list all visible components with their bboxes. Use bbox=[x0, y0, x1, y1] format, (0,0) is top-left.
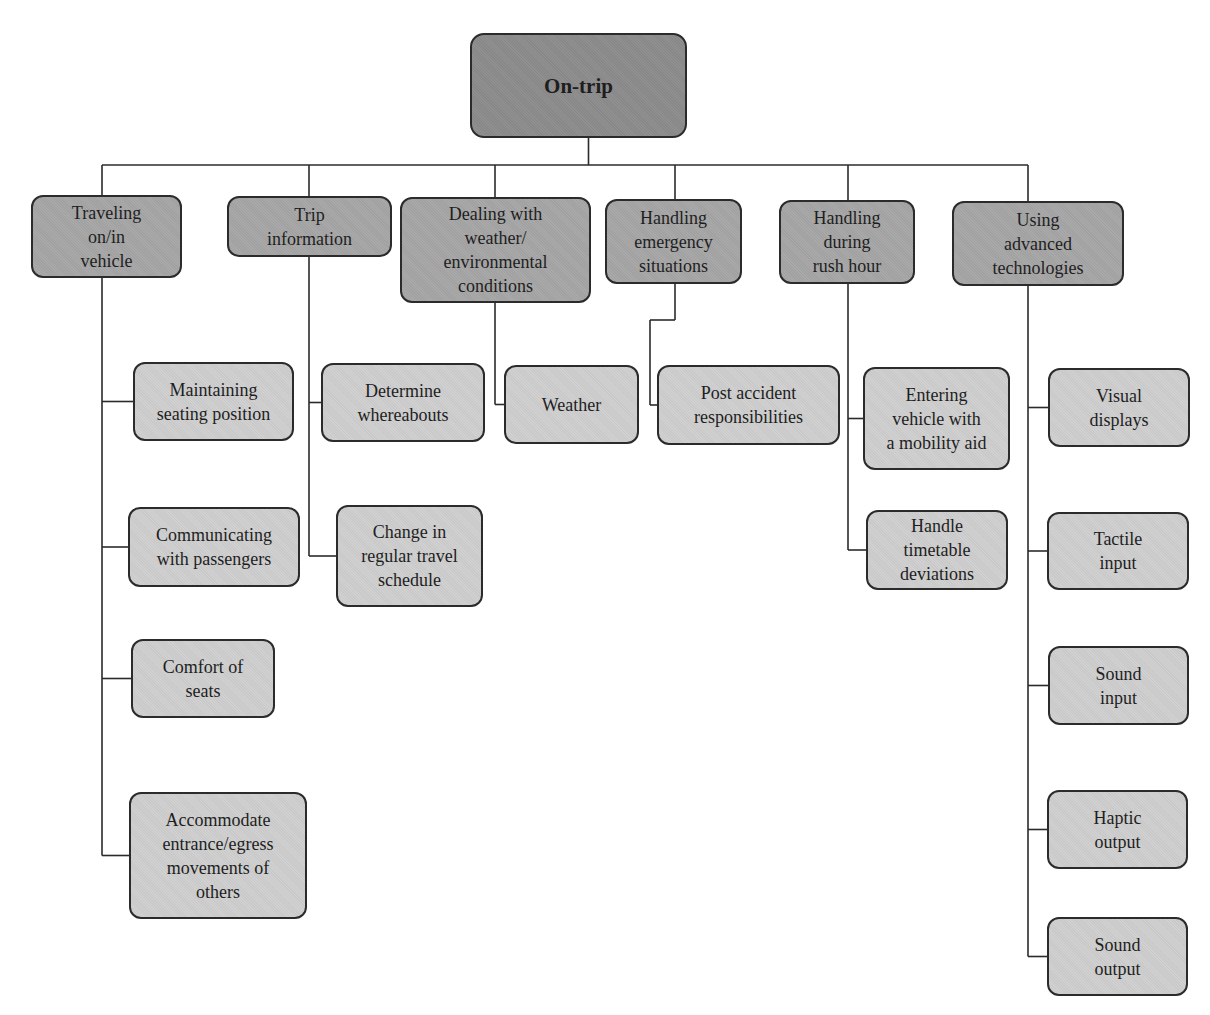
leaf-determine-whereabouts: Determine whereabouts bbox=[321, 363, 485, 442]
leaf-visual-displays: Visual displays bbox=[1048, 368, 1190, 447]
leaf-maintaining-seating-position: Maintaining seating position bbox=[133, 362, 294, 441]
leaf-accommodate-entrance-egress: Accommodate entrance/egress movements of… bbox=[129, 792, 307, 919]
category-weather-environmental: Dealing with weather/ environmental cond… bbox=[400, 197, 591, 303]
leaf-tactile-input: Tactile input bbox=[1047, 512, 1189, 590]
leaf-change-in-travel-schedule: Change in regular travel schedule bbox=[336, 505, 483, 607]
category-rush-hour: Handling during rush hour bbox=[779, 200, 915, 284]
category-trip-information: Trip information bbox=[227, 196, 392, 257]
leaf-communicating-with-passengers: Communicating with passengers bbox=[128, 507, 300, 587]
category-traveling-on-in-vehicle: Traveling on/in vehicle bbox=[31, 195, 182, 278]
root-node-on-trip: On-trip bbox=[470, 33, 687, 138]
leaf-comfort-of-seats: Comfort of seats bbox=[131, 639, 275, 718]
leaf-sound-output: Sound output bbox=[1047, 917, 1188, 996]
leaf-post-accident-responsibilities: Post accident responsibilities bbox=[657, 365, 840, 445]
leaf-weather: Weather bbox=[504, 365, 639, 444]
category-handling-emergency: Handling emergency situations bbox=[605, 199, 742, 284]
leaf-entering-vehicle-mobility-aid: Entering vehicle with a mobility aid bbox=[863, 367, 1010, 470]
category-advanced-technologies: Using advanced technologies bbox=[952, 201, 1124, 286]
leaf-haptic-output: Haptic output bbox=[1047, 790, 1188, 869]
leaf-handle-timetable-deviations: Handle timetable deviations bbox=[866, 510, 1008, 590]
leaf-sound-input: Sound input bbox=[1048, 646, 1189, 725]
